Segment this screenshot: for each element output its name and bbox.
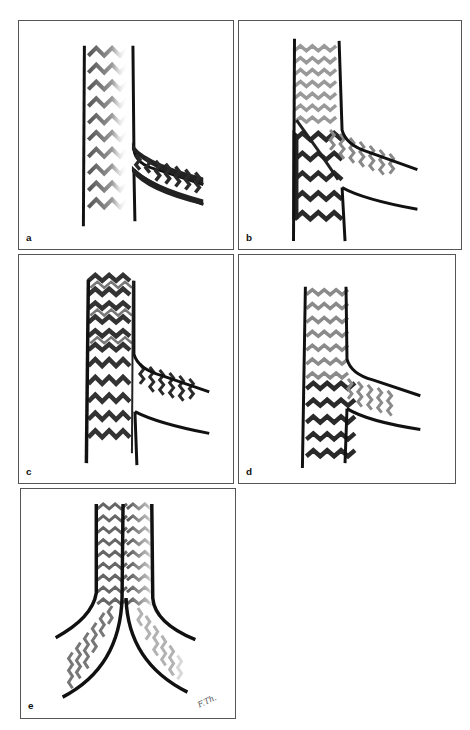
vessel-wall-left — [83, 46, 84, 226]
main-stent-upper-gray — [295, 46, 337, 122]
bifurcation-diagram-a: a — [19, 21, 233, 249]
bifurcation-diagram-c: c — [19, 255, 233, 483]
panel-label-b: b — [246, 232, 252, 243]
panel-label-c: c — [26, 466, 32, 477]
vessel-wall-right — [133, 46, 203, 221]
artist-signature: F.Th. — [195, 693, 218, 710]
main-stent-faded — [88, 48, 128, 208]
vessel-wall-left — [86, 280, 88, 463]
panel-label-d: d — [246, 466, 252, 477]
panel-c: c — [18, 254, 234, 484]
vessel-wall-right — [345, 287, 420, 463]
panel-label-e: e — [28, 700, 34, 711]
bifurcation-diagram-d: d — [239, 255, 455, 483]
vessel-wall-left — [302, 287, 305, 468]
panel-label-a: a — [26, 232, 32, 243]
vessel-wall-left — [294, 39, 295, 241]
panel-e: e F.Th. — [20, 488, 236, 719]
vessel-wall-right — [134, 281, 209, 465]
panel-b: b — [238, 20, 462, 250]
right-outer-wall — [152, 504, 196, 640]
left-outer-wall — [56, 504, 97, 638]
main-stent-upper-gray — [306, 290, 348, 378]
bifurcation-diagram-e: e F.Th. — [21, 489, 235, 718]
bifurcation-diagram-b: b — [239, 21, 461, 249]
main-stent-dark — [88, 275, 130, 437]
panel-a: a — [18, 20, 234, 250]
panel-d: d — [238, 254, 456, 484]
